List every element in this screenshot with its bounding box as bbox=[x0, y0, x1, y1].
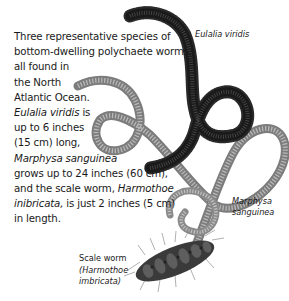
label-eulalia-viridis: Eulalia viridis bbox=[195, 29, 249, 40]
caption-line-12: inibricata, is just 2 inches (5 cm) bbox=[14, 196, 164, 211]
caption-line-1: Three representative species of bbox=[14, 29, 164, 44]
caption-line-2: bottom-dwelling polychaete worms, bbox=[14, 44, 164, 59]
scale-worm-illustration bbox=[124, 228, 224, 292]
scale-worm-latin-name-1: (Harmothoe bbox=[79, 265, 128, 277]
caption-line-6: Eulalia viridis is bbox=[14, 105, 164, 120]
caption-line-11: and the scale worm, Harmothoe bbox=[14, 181, 164, 196]
harmothoe-genus-name: Harmothoe bbox=[118, 183, 174, 194]
caption-line-13: in length. bbox=[14, 211, 164, 226]
caption-line-4: the North bbox=[14, 75, 164, 90]
marphysa-species-name: Marphysa sanguinea bbox=[14, 153, 117, 164]
caption-line-8: (15 cm) long, bbox=[14, 135, 164, 150]
caption-text: Three representative species of bottom-d… bbox=[14, 29, 164, 227]
caption-line-5: Atlantic Ocean. bbox=[14, 90, 164, 105]
scale-worm-latin-name-2: imbricata) bbox=[79, 276, 128, 288]
eulalia-species-name: Eulalia viridis bbox=[14, 107, 79, 118]
caption-line-9: Marphysa sanguinea bbox=[14, 151, 164, 166]
scale-worm-common-name: Scale worm bbox=[79, 253, 128, 265]
label-scale-worm: Scale worm (Harmothoe imbricata) bbox=[79, 253, 128, 288]
caption-line-10: grows up to 24 inches (60 cm), bbox=[14, 166, 164, 181]
label-marphysa-sanguinea: Marphysa sanguinea bbox=[232, 196, 274, 218]
harmothoe-species-name: inibricata, bbox=[14, 198, 63, 209]
caption-line-3: all found in bbox=[14, 59, 164, 74]
caption-line-7: up to 6 inches bbox=[14, 120, 164, 135]
